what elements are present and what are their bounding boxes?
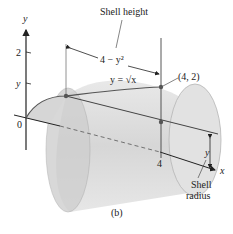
shell-diagram: y 2 y 0 x 4 Shell height 4 − y² y = √x (…: [0, 0, 233, 234]
point-4-2: [159, 85, 163, 89]
x-axis-label: x: [219, 165, 225, 176]
shell-radius-label-1: Shell: [191, 179, 212, 190]
radius-y-label: y: [204, 147, 210, 158]
origin-label: 0: [17, 119, 22, 130]
point-left: [64, 94, 68, 98]
shell-height-label: Shell height: [100, 6, 148, 17]
tick-y: y: [15, 78, 21, 89]
figure-caption: (b): [111, 207, 123, 219]
point-4-y: [159, 120, 163, 124]
height-expression: 4 − y²: [100, 54, 124, 65]
y-axis-label: y: [22, 13, 28, 24]
tick-4: 4: [157, 158, 162, 169]
curve-label: y = √x: [110, 74, 136, 85]
shell-radius-label-2: radius: [186, 190, 211, 201]
tick-2: 2: [16, 47, 21, 58]
point-label: (4, 2): [178, 71, 200, 83]
